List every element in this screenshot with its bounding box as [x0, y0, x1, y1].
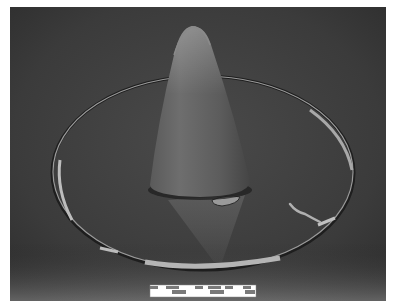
scale-bar	[150, 285, 256, 297]
photograph	[0, 0, 395, 308]
